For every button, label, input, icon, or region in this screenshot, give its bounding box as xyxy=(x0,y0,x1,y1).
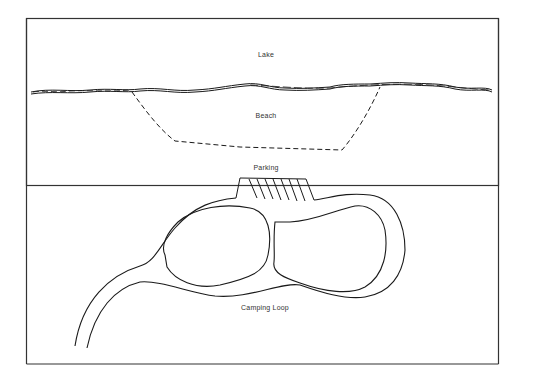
diagram-canvas xyxy=(0,0,559,381)
frame-border xyxy=(27,19,499,186)
shoreline xyxy=(31,83,492,94)
camping-loop-roads xyxy=(75,194,405,348)
lake-label: Lake xyxy=(258,51,274,58)
parking-label: Parking xyxy=(253,164,278,171)
parking-lot xyxy=(236,178,314,201)
beach-label: Beach xyxy=(256,112,277,119)
camping-loop-label: Camping Loop xyxy=(241,304,289,311)
frame-border xyxy=(27,19,499,185)
